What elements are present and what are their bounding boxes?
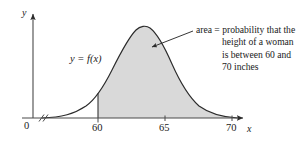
plot-canvas xyxy=(0,0,306,148)
x-tick-label-60: 60 xyxy=(92,123,103,134)
annotation-line-4: 70 inches xyxy=(196,61,306,73)
area-annotation: area = probability that the height of a … xyxy=(196,24,306,74)
annotation-line-3: is between 60 and xyxy=(196,49,306,61)
annotation-line-2: height of a woman xyxy=(196,36,306,48)
x-axis-label: x xyxy=(247,124,251,134)
x-tick-label-65: 65 xyxy=(159,123,170,134)
annotation-line-1: area = probability that the xyxy=(196,24,306,36)
origin-label: 0 xyxy=(24,121,29,132)
y-axis-label: y xyxy=(22,8,26,18)
probability-density-figure: y x 0 60 65 70 y = f(x) area = probabili… xyxy=(0,0,306,148)
x-tick-label-70: 70 xyxy=(226,123,237,134)
curve-equation-label: y = f(x) xyxy=(70,54,102,65)
